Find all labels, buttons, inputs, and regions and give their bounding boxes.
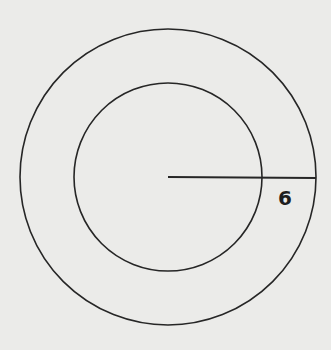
concentric-circles-figure: 6 bbox=[0, 0, 331, 350]
radius-segment bbox=[168, 177, 316, 178]
diagram-canvas: 6 bbox=[0, 0, 331, 350]
segment-length-label: 6 bbox=[278, 186, 292, 210]
